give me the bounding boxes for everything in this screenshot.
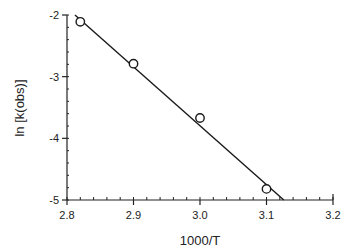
- x-tick-label: 2.9: [126, 209, 141, 221]
- y-tick-label: -2: [49, 9, 59, 21]
- data-point-circle: [129, 60, 137, 68]
- y-axis: -2-3-4-5: [49, 9, 69, 206]
- arrhenius-chart: -2-3-4-5 2.82.93.03.13.2 1000/T ln [k(ob…: [0, 0, 362, 252]
- x-tick-label: 3.1: [259, 209, 274, 221]
- data-point-circle: [196, 114, 204, 122]
- fit-line: [75, 15, 284, 200]
- x-tick-label: 2.8: [59, 209, 74, 221]
- data-point-circle: [76, 18, 84, 26]
- y-tick-label: -4: [49, 132, 59, 144]
- y-axis-label: ln [k(obs)]: [12, 79, 27, 136]
- y-tick-label: -3: [49, 71, 59, 83]
- x-axis-label: 1000/T: [180, 233, 221, 248]
- regression-line: [75, 15, 284, 200]
- data-point-circle: [262, 185, 270, 193]
- x-tick-label: 3.0: [192, 209, 207, 221]
- x-axis: 2.82.93.03.13.2: [59, 194, 340, 221]
- x-tick-label: 3.2: [325, 209, 340, 221]
- data-points: [76, 18, 271, 194]
- y-tick-label: -5: [49, 194, 59, 206]
